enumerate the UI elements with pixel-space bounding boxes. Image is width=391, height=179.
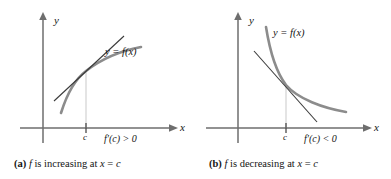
derivative-note: f′(c) > 0 bbox=[104, 134, 137, 144]
tick-label-c: c bbox=[283, 133, 287, 142]
panel-b-caption-tag: (b) bbox=[209, 158, 222, 169]
x-axis-arrowhead bbox=[363, 124, 372, 132]
panel-b-caption-c: c bbox=[313, 158, 318, 169]
panel-b-caption-eq: = bbox=[302, 158, 313, 169]
panel-b-caption: (b) f is decreasing at x = c bbox=[209, 158, 318, 170]
curve-label: y = f(x) bbox=[105, 47, 137, 58]
x-axis-label: x bbox=[374, 122, 379, 133]
panel-b-decreasing: y x c y = f(x) f′(c) < 0 (b) f is decrea… bbox=[196, 0, 391, 179]
x-axis-label: x bbox=[180, 122, 185, 133]
panel-a-increasing: y x c y = f(x) f′(c) > 0 (a) f is increa… bbox=[0, 0, 196, 179]
tick-label-c: c bbox=[83, 133, 87, 142]
curve-label: y = f(x) bbox=[273, 28, 305, 39]
panel-a-caption-mid: is increasing at bbox=[32, 158, 100, 169]
panel-a-caption: (a) f is increasing at x = c bbox=[14, 158, 121, 170]
x-axis-arrowhead bbox=[169, 124, 178, 132]
panel-a-caption-eq: = bbox=[105, 158, 116, 169]
panel-a-caption-c: c bbox=[116, 158, 121, 169]
derivative-note: f′(c) < 0 bbox=[304, 134, 337, 144]
panel-a-caption-tag: (a) bbox=[14, 158, 26, 169]
panel-b-caption-mid: is decreasing at bbox=[227, 158, 297, 169]
function-curve bbox=[266, 27, 346, 112]
y-axis-arrowhead bbox=[39, 12, 47, 20]
y-axis-label: y bbox=[54, 15, 59, 26]
y-axis-arrowhead bbox=[234, 12, 242, 20]
panel-a-graphic bbox=[0, 0, 196, 179]
y-axis-label: y bbox=[249, 15, 254, 26]
figure-root: y x c y = f(x) f′(c) > 0 (a) f is increa… bbox=[0, 0, 391, 179]
